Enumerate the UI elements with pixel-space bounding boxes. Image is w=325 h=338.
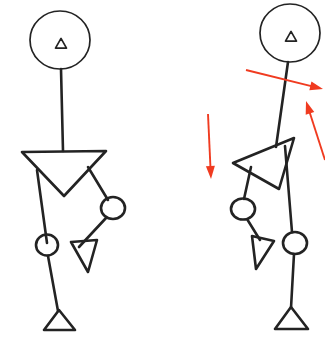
canvas-background xyxy=(0,0,325,338)
stick-figure-illustration xyxy=(0,0,325,338)
figure-canvas xyxy=(0,0,325,338)
